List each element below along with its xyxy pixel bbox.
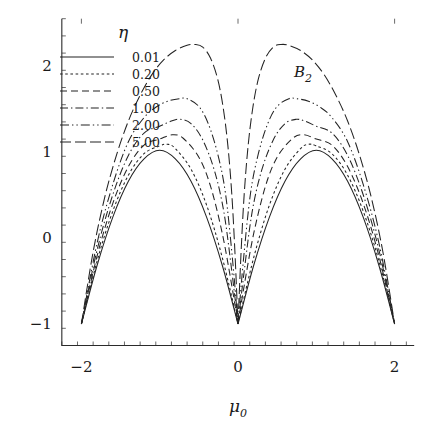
x-axis-title-main: μ (229, 396, 240, 416)
x-tick-label: 2 (390, 358, 400, 376)
y-tick-label: −1 (30, 315, 52, 333)
curve-eta-5.00 (238, 44, 395, 324)
y-tick-label: 2 (42, 57, 52, 75)
curve-eta-0.20 (81, 144, 238, 324)
legend: η0.010.200.501.002.005.00 (60, 22, 160, 150)
legend-title: η (118, 22, 129, 42)
legend-label-5.00: 5.00 (132, 135, 160, 150)
plot-annotation-main: B (293, 63, 305, 81)
y-tick-label: 0 (42, 229, 52, 247)
figure-panel: −1012−202μ0B2 η0.010.200.501.002.005.00 (0, 0, 440, 430)
legend-label-0.01: 0.01 (132, 50, 160, 65)
x-tick-label: 0 (233, 358, 243, 376)
plot-annotation: B2 (293, 63, 312, 85)
curve-eta-2.00 (238, 98, 395, 324)
curves (81, 44, 394, 324)
legend-label-2.00: 2.00 (132, 118, 160, 133)
axes (62, 19, 414, 346)
axis-labels: −1012−202μ0B2 (30, 57, 400, 420)
legend-label-0.50: 0.50 (132, 84, 160, 99)
legend-label-1.00: 1.00 (132, 101, 160, 116)
x-tick-label: −2 (70, 358, 92, 376)
curve-eta-0.50 (238, 135, 395, 324)
plot-annotation-subscript: 2 (304, 72, 312, 85)
curve-eta-0.01 (81, 150, 238, 324)
axis-spines (62, 19, 414, 346)
curve-eta-0.01 (238, 150, 395, 324)
y-tick-label: 1 (42, 143, 52, 161)
x-axis-title: μ0 (229, 396, 247, 420)
legend-label-0.20: 0.20 (132, 67, 160, 82)
x-axis-title-subscript: 0 (240, 407, 247, 420)
plot-svg: −1012−202μ0B2 η0.010.200.501.002.005.00 (0, 0, 440, 430)
